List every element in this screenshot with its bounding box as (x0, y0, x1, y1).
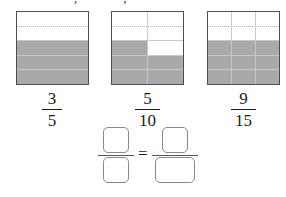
grid-cell-shaded (112, 41, 148, 55)
fraction-label-three-fifths: 3 5 (40, 89, 64, 130)
grid-cell (17, 27, 88, 41)
grid-row (208, 56, 279, 71)
grid-cell-shaded (232, 56, 256, 70)
grid-row (112, 70, 183, 84)
fraction-bar (42, 109, 62, 110)
answer-box-right-denominator[interactable] (155, 157, 195, 183)
grid-row (208, 70, 279, 84)
grid-cell-shaded (256, 70, 279, 84)
grid-cell (148, 41, 183, 55)
grid-row (208, 27, 279, 42)
equals-sign: = (138, 144, 148, 166)
grid-cell (17, 12, 88, 26)
grid-row (17, 41, 88, 56)
fraction-model-nine-fifteenths (207, 11, 280, 85)
grid-row (112, 56, 183, 71)
grid-cell-shaded (208, 56, 232, 70)
answer-fraction-right (152, 127, 198, 183)
fraction-label-nine-fifteenths: 9 15 (230, 89, 257, 130)
grid-row (17, 12, 88, 27)
answer-box-left-denominator[interactable] (103, 157, 129, 183)
grid-cell-shaded (256, 41, 279, 55)
grid-cell (112, 12, 148, 26)
grid-cell-shaded (232, 41, 256, 55)
grid-row (17, 70, 88, 84)
grid-cell (256, 27, 279, 41)
fraction-denominator: 5 (40, 111, 64, 130)
grid-cell-shaded (208, 70, 232, 84)
grid-cell-shaded (112, 56, 148, 70)
worksheet-canvas: ~~~~ ~~ ~~ , ~~ ~~~, ~~~ (0, 0, 286, 197)
grid-row (112, 12, 183, 27)
answer-fraction-left (98, 127, 134, 183)
grid-cell-shaded (148, 56, 183, 70)
grid-cell-shaded (112, 70, 148, 84)
grid-cell (112, 27, 148, 41)
grid-cell (208, 27, 232, 41)
grid-row (112, 27, 183, 42)
grid-row (17, 27, 88, 42)
grid-cell-shaded (17, 41, 88, 55)
grid-row (112, 41, 183, 56)
fraction-bar (135, 109, 160, 110)
answer-box-left-numerator[interactable] (103, 127, 129, 153)
grid-cell (256, 12, 279, 26)
fraction-numerator: 9 (230, 89, 257, 108)
grid-row (208, 12, 279, 27)
answer-fraction-bar-left (98, 155, 134, 156)
fraction-denominator: 15 (230, 111, 257, 130)
grid-cell-shaded (148, 70, 183, 84)
fraction-numerator: 5 (134, 89, 161, 108)
grid-row (208, 41, 279, 56)
fraction-model-three-fifths (16, 11, 89, 85)
grid-cell (148, 27, 183, 41)
grid-cell (148, 12, 183, 26)
grid-cell-shaded (17, 56, 88, 70)
grid-cell (232, 12, 256, 26)
grid-cell-shaded (232, 70, 256, 84)
answer-equation: = (98, 127, 198, 183)
answer-fraction-bar-right (152, 155, 198, 156)
fraction-bar (231, 109, 256, 110)
grid-cell (208, 12, 232, 26)
fraction-model-five-tenths (111, 11, 184, 85)
fraction-label-five-tenths: 5 10 (134, 89, 161, 130)
grid-cell (232, 27, 256, 41)
grid-cell-shaded (256, 56, 279, 70)
grid-cell-shaded (17, 70, 88, 84)
grid-row (17, 56, 88, 71)
grid-cell-shaded (208, 41, 232, 55)
cut-off-header-text: ~~~~ ~~ ~~ , ~~ ~~~, ~~~ (2, 0, 154, 6)
fraction-numerator: 3 (40, 89, 64, 108)
answer-box-right-numerator[interactable] (162, 127, 188, 153)
